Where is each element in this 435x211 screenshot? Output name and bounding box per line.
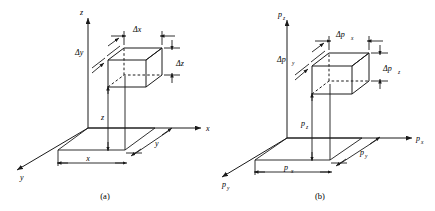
panel-b-volume-cell [312, 53, 369, 94]
panel-b-dpy-ext-b [311, 51, 325, 62]
panel-b-delta-pz-label-sub: z [397, 69, 401, 75]
phase-space-figure: z x y [0, 0, 435, 211]
panel-b-py-arrow-a [336, 159, 346, 166]
panel-b-pz-axis-label-sub: z [282, 15, 286, 21]
panel-a-volume-cell [108, 48, 162, 87]
panel-b-pz-dim-label-sub: z [305, 124, 309, 130]
panel-a-delta-y-dimension [92, 38, 120, 73]
panel-b-delta-px-dimension [315, 36, 383, 50]
panel-b-delta-px-label-base: Δp [335, 30, 345, 39]
panel-a-z-axis-label: z [79, 8, 84, 17]
panel-b-delta-py-label: Δp y [276, 55, 295, 66]
panel-b-dpy-arrow-b [312, 43, 324, 52]
panel-b-py-axis-label-sub: y [226, 185, 230, 191]
panel-b-footprint [255, 138, 362, 160]
panel-b-px-axis-label-sub: x [420, 139, 424, 145]
panel-b-delta-py-dimension [295, 43, 325, 80]
panel-a-y-axis [17, 128, 88, 170]
panel-b-py-axis-label-base: p [221, 180, 226, 189]
panel-a-dy-ext-a [92, 58, 105, 68]
panel-b-caption: (b) [315, 191, 325, 201]
panel-b-py-dimension [331, 137, 380, 166]
panel-a-delta-y-label: Δy [74, 48, 84, 57]
panel-a-cell-right-face [146, 48, 162, 87]
panel-b-pz-dim-label-base: p [300, 119, 305, 128]
panel-b: p z p x p y [221, 10, 424, 201]
panel-b-cell-right-face [352, 53, 369, 94]
panel-a-delta-x-label: Δx [132, 25, 142, 34]
panel-b-axes [222, 20, 412, 177]
panel-a-footprint [58, 128, 155, 150]
panel-a-y-arrow-b [162, 128, 172, 135]
panel-b-py-dim-label: p y [359, 148, 368, 159]
panel-a-y-axis-label: y [19, 173, 24, 182]
panel-b-pz-dim-label: p z [300, 119, 309, 130]
panel-a-base-plane [58, 128, 155, 150]
panel-b-py-axis [222, 138, 287, 177]
panel-b-py-dim-label-sub: y [364, 153, 368, 159]
panel-a: z x y [17, 8, 210, 201]
panel-b-px-dim-label-base: p [283, 163, 288, 172]
figure-root: z x y [0, 0, 435, 211]
panel-a-x-dimension [57, 150, 127, 166]
panel-a-dy-arrow-a [92, 63, 104, 73]
panel-b-py-axis-label: p y [221, 180, 230, 191]
panel-a-delta-z-label: Δz [175, 59, 185, 68]
panel-b-pz-axis-label: p z [277, 10, 286, 21]
panel-a-dy-ext-b [107, 46, 120, 56]
panel-a-y-arrow-a [131, 149, 141, 156]
panel-b-py-dim-label-base: p [359, 148, 364, 157]
panel-b-delta-py-label-sub: y [291, 60, 295, 66]
panel-a-dy-arrow-b [108, 38, 119, 46]
panel-a-z-dim-label: z [100, 113, 105, 122]
panel-b-delta-px-label-sub: x [350, 35, 354, 41]
panel-a-y-dim-label: y [154, 139, 159, 148]
panel-a-delta-x-dimension [111, 31, 175, 45]
panel-b-px-dim-label-sub: x [290, 168, 294, 174]
panel-b-delta-pz-label-base: Δp [382, 64, 392, 73]
panel-b-delta-px-label: Δp x [335, 30, 354, 41]
panel-a-axes [17, 18, 201, 170]
panel-b-px-axis-label-base: p [415, 134, 420, 143]
panel-b-dpy-arrow-a [295, 69, 308, 80]
panel-b-base-plane [255, 138, 362, 160]
panel-b-px-axis-label: p x [415, 134, 424, 145]
panel-b-delta-py-label-base: Δp [276, 55, 286, 64]
panel-a-x-axis-label: x [205, 124, 210, 133]
panel-a-caption: (a) [100, 191, 110, 201]
panel-a-x-dim-label: x [85, 154, 90, 163]
panel-b-pz-axis-label-base: p [277, 10, 282, 19]
panel-b-delta-pz-label: Δp z [382, 64, 401, 75]
